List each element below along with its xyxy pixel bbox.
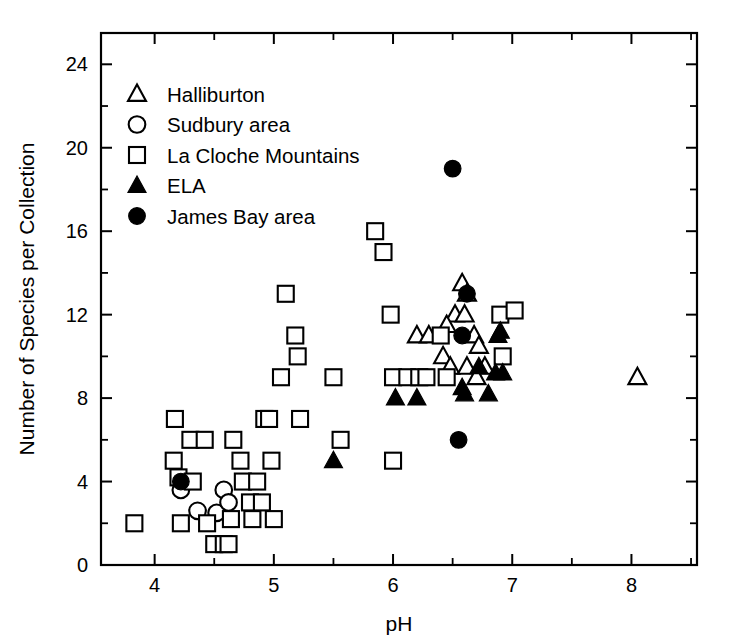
- plot-canvas: 45678 04812162024 HalliburtonSudbury are…: [0, 0, 731, 644]
- y-tick-label: 12: [66, 304, 88, 326]
- y-axis-title: Number of Species per Collection: [15, 143, 38, 456]
- legend-label-1: Sudbury area: [167, 113, 291, 136]
- open-square-marker: [254, 494, 270, 510]
- legend-label-0: Halliburton: [167, 83, 265, 106]
- x-axis-title: pH: [386, 612, 413, 635]
- x-tick-label: 7: [507, 574, 518, 596]
- open-square-marker: [199, 515, 215, 531]
- x-tick-label: 4: [149, 574, 160, 596]
- open-square-marker: [126, 515, 142, 531]
- open-square-marker: [221, 536, 237, 552]
- y-tick-label: 20: [66, 137, 88, 159]
- filled-triangle-marker: [386, 389, 404, 405]
- open-square-marker: [495, 348, 511, 364]
- filled-circle-marker: [459, 285, 476, 302]
- x-tick-label: 6: [387, 574, 398, 596]
- filled-triangle-marker: [479, 384, 497, 400]
- open-square-marker: [166, 453, 182, 469]
- legend-label-3: ELA: [167, 174, 206, 197]
- x-tick-label: 5: [268, 574, 279, 596]
- open-square-marker: [333, 432, 349, 448]
- open-square-marker: [244, 511, 260, 527]
- filled-circle-marker: [450, 432, 467, 449]
- filled-circle-marker: [454, 327, 471, 344]
- y-axis-tick-labels: 04812162024: [66, 53, 88, 576]
- open-square-marker: [173, 515, 189, 531]
- legend-open-square-icon: [129, 147, 145, 163]
- x-axis-tick-labels: 45678: [149, 574, 637, 596]
- open-square-marker: [325, 369, 341, 385]
- scatter-plot-figure: 45678 04812162024 HalliburtonSudbury are…: [0, 0, 731, 644]
- open-square-marker: [273, 369, 289, 385]
- open-square-marker: [385, 453, 401, 469]
- open-square-marker: [376, 244, 392, 260]
- y-tick-label: 4: [77, 471, 88, 493]
- open-square-marker: [261, 411, 277, 427]
- filled-circle-marker: [173, 473, 190, 490]
- filled-circle-marker: [444, 160, 461, 177]
- open-square-marker: [197, 432, 213, 448]
- legend-open-triangle-icon: [128, 84, 146, 100]
- open-square-marker: [439, 369, 455, 385]
- x-tick-label: 8: [626, 574, 637, 596]
- y-tick-label: 24: [66, 53, 88, 75]
- open-square-marker: [507, 302, 523, 318]
- open-square-marker: [367, 223, 383, 239]
- open-square-marker: [225, 432, 241, 448]
- legend-open-circle-icon: [129, 116, 146, 133]
- filled-triangle-marker: [324, 451, 342, 467]
- legend-label-2: La Cloche Mountains: [167, 144, 360, 167]
- open-square-marker: [433, 328, 449, 344]
- open-square-marker: [167, 411, 183, 427]
- open-square-marker: [232, 453, 248, 469]
- open-square-marker: [287, 328, 303, 344]
- legend: HalliburtonSudbury areaLa Cloche Mountai…: [128, 83, 360, 228]
- open-square-marker: [278, 286, 294, 302]
- open-square-marker: [383, 307, 399, 323]
- legend-label-4: James Bay area: [167, 205, 316, 228]
- open-square-marker: [292, 411, 308, 427]
- y-tick-label: 16: [66, 220, 88, 242]
- open-triangle-marker: [628, 368, 646, 384]
- open-square-marker: [263, 453, 279, 469]
- open-square-marker: [223, 511, 239, 527]
- y-tick-label: 8: [77, 387, 88, 409]
- open-square-marker: [266, 511, 282, 527]
- open-square-marker: [249, 474, 265, 490]
- filled-triangle-marker: [408, 389, 426, 405]
- y-tick-label: 0: [77, 554, 88, 576]
- legend-filled-triangle-icon: [128, 176, 146, 192]
- open-square-marker: [290, 348, 306, 364]
- legend-filled-circle-icon: [129, 208, 146, 225]
- filled-triangle-marker: [491, 322, 509, 338]
- open-circle-marker: [220, 494, 237, 511]
- open-square-marker: [418, 369, 434, 385]
